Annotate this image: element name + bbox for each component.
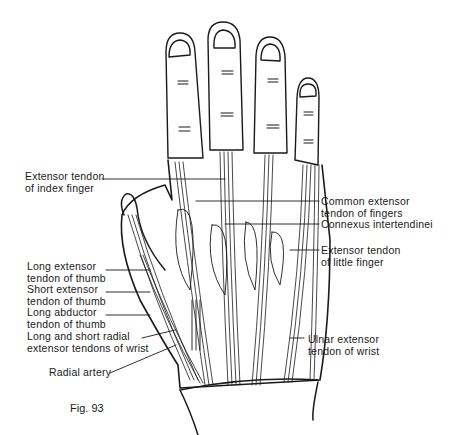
figure-caption: Fig. 93 — [70, 402, 104, 414]
label-radial-artery: Radial artery — [49, 366, 111, 378]
hand-tendon-figure: Extensor tendon of index finger Long ext… — [0, 0, 451, 435]
label-long-abductor-thumb: Long abductor tendon of thumb — [27, 306, 106, 330]
label-radial-extensor-wrist: Long and short radial extensor tendons o… — [27, 330, 149, 354]
label-extensor-tendon-little: Extensor tendon of little finger — [321, 244, 400, 268]
fingers — [166, 22, 319, 165]
label-ulnar-extensor-wrist: Ulnar extensor tendon of wrist — [308, 333, 379, 357]
label-extensor-tendon-index: Extensor tendon of index finger — [25, 170, 104, 194]
label-long-extensor-thumb: Long extensor tendon of thumb — [27, 260, 106, 284]
label-common-extensor-fingers: Common extensor tendon of fingers — [321, 195, 410, 219]
label-connexus-intertendinei: Connexus intertendinei — [321, 218, 433, 230]
hand-outline — [121, 160, 330, 388]
label-short-extensor-thumb: Short extensor tendon of thumb — [27, 283, 106, 307]
